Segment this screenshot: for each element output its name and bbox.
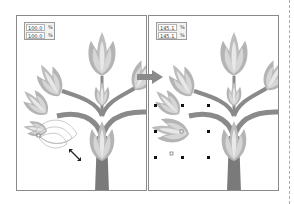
after-scale-panel: 145.1 % 145.1 % xyxy=(148,15,279,191)
percent-label: % xyxy=(48,32,53,40)
before-scale-panel: 100.0 % 100.0 % xyxy=(16,15,147,191)
dashed-divider xyxy=(289,0,290,204)
scale-x-field[interactable]: 145.1 xyxy=(158,24,177,31)
scale-y-field[interactable]: 100.0 xyxy=(26,32,45,39)
scale-input-box: 145.1 % 145.1 % xyxy=(156,22,187,40)
percent-label: % xyxy=(180,32,185,40)
scale-y-field[interactable]: 145.1 xyxy=(158,32,177,39)
tree-illustration-before xyxy=(17,16,147,191)
scale-x-field[interactable]: 100.0 xyxy=(26,24,45,31)
tree-illustration-after xyxy=(149,16,279,191)
scale-input-box: 100.0 % 100.0 % xyxy=(24,22,55,40)
percent-label: % xyxy=(180,24,185,32)
percent-label: % xyxy=(48,24,53,32)
arrow-right-icon xyxy=(137,70,163,84)
